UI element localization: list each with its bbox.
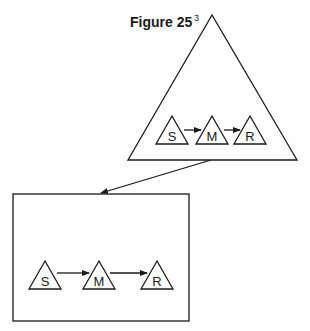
node-label: R bbox=[152, 274, 161, 289]
expanded-box bbox=[13, 194, 189, 321]
box-node-r: R bbox=[141, 261, 173, 289]
node-label: R bbox=[245, 129, 254, 144]
connector-arrow bbox=[101, 160, 211, 193]
figure-superscript: 3 bbox=[194, 13, 199, 23]
box-node-m: M bbox=[83, 261, 115, 289]
figure-title: Figure 25 bbox=[130, 14, 192, 30]
node-label: M bbox=[94, 274, 105, 289]
top-node-s: S bbox=[156, 116, 188, 144]
box-node-s: S bbox=[29, 261, 61, 289]
node-label: M bbox=[207, 129, 218, 144]
diagram: Figure 25 3 S M R S M R bbox=[0, 0, 310, 331]
node-label: S bbox=[41, 274, 50, 289]
node-label: S bbox=[168, 129, 177, 144]
